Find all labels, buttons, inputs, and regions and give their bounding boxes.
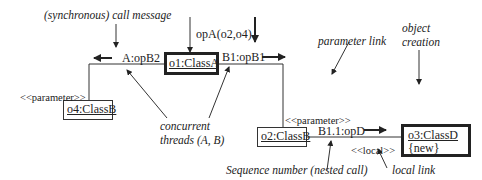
message-opa: opA(o2,o4) [196, 28, 252, 41]
stereotype-parameter-right: <<parameter>> [285, 114, 351, 127]
annotation-object-creation-1: object [402, 22, 430, 35]
link-o1-o2 [218, 64, 283, 127]
stereotype-local: <<local>> [351, 144, 395, 157]
message-b1-opb1: B1:opB1 [222, 51, 265, 64]
object-o2-classb[interactable]: o2:ClassB [257, 127, 307, 147]
annotation-object-creation-2: creation [402, 36, 440, 49]
object-label: o4:ClassB [67, 102, 116, 116]
pointer-concurrent-a [127, 70, 167, 118]
link-o1-o4 [89, 64, 164, 100]
object-label: o2:ClassB [261, 129, 310, 143]
object-label: o1:ClassA [169, 56, 219, 70]
message-a-opb2: A:opB2 [122, 52, 160, 65]
annotation-local-link: local link [392, 164, 435, 177]
object-constraint: {new} [408, 142, 464, 155]
object-o3-classd[interactable]: o3:ClassD {new} [401, 124, 471, 157]
annotation-sync-call: (synchronous) call message [44, 9, 171, 22]
annotation-concurrent-2: threads (A, B) [160, 134, 224, 147]
annotation-concurrent-1: concurrent [160, 120, 210, 133]
annotation-parameter-link: parameter link [318, 35, 386, 48]
annotation-sequence-number: Sequence number (nested call) [226, 164, 367, 177]
stereotype-parameter-left: <<parameter>> [20, 91, 86, 104]
object-o1-classa[interactable]: o1:ClassA [164, 52, 219, 75]
